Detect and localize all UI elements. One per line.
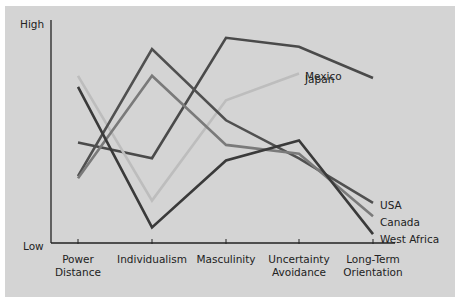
- y-axis-low-label: Low: [23, 240, 44, 252]
- x-tick-label: Uncertainty: [268, 253, 329, 265]
- series-label-usa: USA: [380, 199, 403, 211]
- series-label-canada: Canada: [380, 216, 420, 228]
- line-chart: HighLowPowerDistanceIndividualismMasculi…: [0, 0, 455, 297]
- x-tick-label: Avoidance: [272, 266, 326, 278]
- series-label-mexico: Mexico: [305, 70, 342, 82]
- series-line-west-africa: [78, 87, 373, 234]
- x-tick-label: Long-Term: [346, 253, 400, 265]
- series-line-canada: [78, 76, 373, 216]
- series-label-west-africa: West Africa: [380, 233, 439, 245]
- x-tick-label: Power: [62, 253, 94, 265]
- x-tick-label: Individualism: [117, 253, 187, 265]
- y-axis-high-label: High: [20, 18, 44, 30]
- series-line-mexico: [78, 74, 299, 201]
- x-tick-label: Distance: [55, 266, 101, 278]
- x-tick-label: Masculinity: [196, 253, 255, 265]
- x-tick-label: Orientation: [343, 266, 402, 278]
